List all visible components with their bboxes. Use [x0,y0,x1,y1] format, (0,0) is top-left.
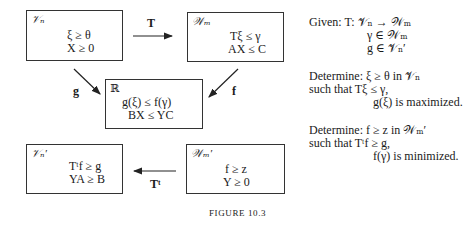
constraint: X ≥ 0 [67,42,94,55]
arrow-f-label: f [232,84,236,99]
constraint: AX ≤ C [228,43,266,56]
space-label: ℝ [110,82,119,95]
constraint: Y ≥ 0 [223,176,250,189]
constraint: YA ≥ B [69,173,105,186]
arrow-Tt-label: Tᵗ [150,177,161,192]
space-label: 𝒱ₙ′ [31,147,47,160]
space-label: 𝒲ₘ′ [191,147,212,160]
space-label: 𝒱ₙ [31,13,44,26]
dual-line: f(γ) is minimized. [309,150,459,163]
arrow-T-label: T [147,16,155,31]
arrow-g-label: g [73,84,79,99]
primal-line: g(ξ) is maximized. [309,96,463,109]
figure-caption: FIGURE 10.3 [209,208,266,218]
given-line: g ∈ 𝒱ₙ′ [309,42,411,55]
box-wm: 𝒲ₘ Tξ ≤ γ AX ≤ C [187,12,284,62]
box-vn-dual: 𝒱ₙ′ Tᵗf ≥ g YA ≥ B [26,144,123,194]
space-label: 𝒲ₘ [192,15,211,28]
given-block: Given: T: 𝒱ₙ → 𝒲ₘ γ ∈ 𝒲ₘ g ∈ 𝒱ₙ′ [309,16,411,55]
box-vn: 𝒱ₙ ξ ≥ θ X ≥ 0 [26,10,123,61]
primal-problem-block: Determine: ξ ≥ θ in 𝒱ₙ such that Tξ ≤ γ,… [309,70,463,109]
box-wm-dual: 𝒲ₘ′ f ≥ z Y ≥ 0 [186,144,285,194]
constraint: BX ≤ YC [128,109,173,122]
dual-problem-block: Determine: f ≥ z in 𝒲ₘ′ such that Tᵗf ≥ … [309,124,459,163]
box-reals: ℝ g(ξ) ≤ f(γ) BX ≤ YC [105,79,203,129]
